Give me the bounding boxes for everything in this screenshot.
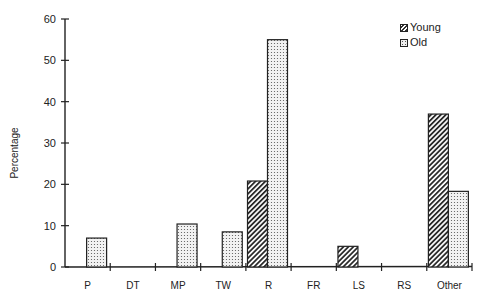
legend-label-young: Young [410,20,441,35]
old-swatch-icon [400,39,408,47]
y-tick-label: 40 [44,96,56,108]
bar-old-r [268,40,288,267]
x-category-label: Other [437,280,463,291]
y-tick-label: 50 [44,54,56,66]
x-category-label: MP [171,280,186,291]
legend-item-young: Young [400,20,441,35]
legend-item-old: Old [400,35,441,50]
x-category-label: RS [397,280,411,291]
x-category-label: FR [307,280,320,291]
x-category-label: TW [216,280,232,291]
bars [87,40,469,267]
y-tick-label: 10 [44,220,56,232]
bar-young-other [428,114,448,267]
bar-young-r [248,181,268,267]
bar-old-p [87,238,107,267]
young-swatch-icon [400,24,408,32]
bar-young-ls [338,246,358,267]
y-tick-label: 20 [44,178,56,190]
x-category-label: DT [126,280,139,291]
bar-old-tw [222,232,242,267]
y-tick-label: 30 [44,137,56,149]
x-category-label: P [84,280,91,291]
bar-old-mp [177,224,197,267]
legend: Young Old [400,20,441,50]
bar-old-other [448,191,468,267]
y-tick-label: 60 [44,13,56,25]
legend-label-old: Old [410,35,427,50]
x-category-label: R [265,280,272,291]
y-axis-title: Percentage [9,127,20,179]
y-tick-label: 0 [50,261,56,273]
x-category-label: LS [353,280,366,291]
